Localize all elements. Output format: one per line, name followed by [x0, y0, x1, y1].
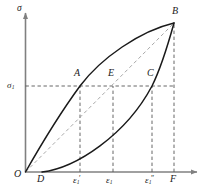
epsilon-prime-mark: ′ — [79, 174, 81, 183]
x-tick-label-epsilon-1-prime: ε1′ — [73, 175, 81, 186]
point-label-a: A — [74, 68, 80, 78]
figure-canvas — [0, 0, 210, 192]
point-label-b: B — [172, 6, 178, 16]
sigma-subscript: 1 — [12, 84, 15, 90]
lower-unloading-curve — [42, 23, 174, 172]
sigma-symbol: σ — [7, 80, 11, 90]
point-label-d: D — [37, 174, 44, 184]
x-tick-label-epsilon-1: ε1 — [106, 175, 112, 186]
x-tick-label-epsilon-1-double-prime: ε1″ — [145, 175, 154, 186]
epsilon-prime-mark: ″ — [151, 174, 154, 183]
epsilon-symbol: ε — [106, 175, 110, 185]
point-label-f: F — [170, 174, 176, 184]
epsilon-symbol: ε — [145, 175, 149, 185]
point-label-c: C — [147, 68, 154, 78]
y-axis-label-sigma: σ — [17, 4, 22, 14]
point-label-e: E — [108, 68, 114, 78]
y-tick-label-sigma-1: σ1 — [7, 81, 14, 91]
point-label-o: O — [14, 169, 21, 179]
epsilon-symbol: ε — [73, 175, 77, 185]
epsilon-subscript: 1 — [110, 179, 113, 185]
stress-strain-figure: σ O D A E C B F σ1 ε1′ ε1 ε1″ — [0, 0, 210, 192]
